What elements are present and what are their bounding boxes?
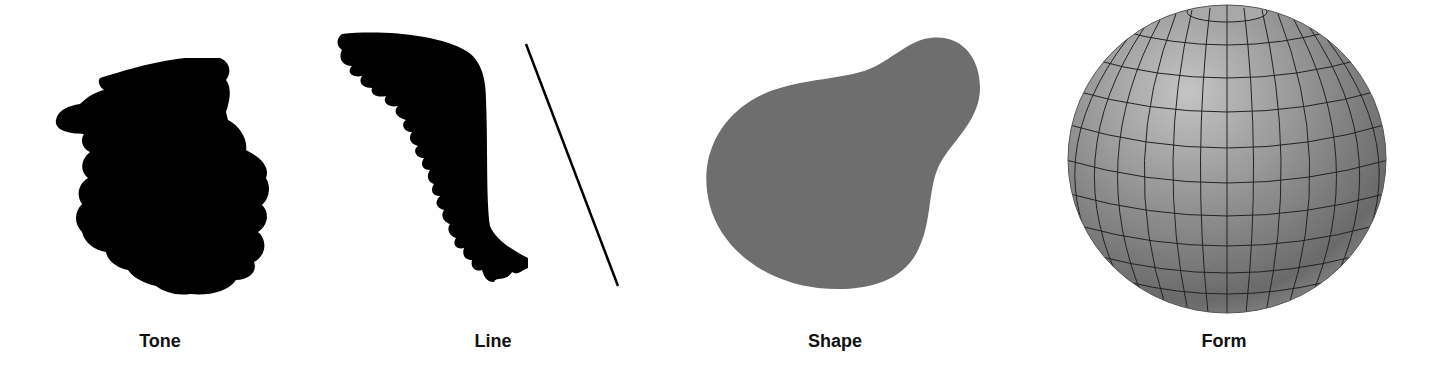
form-label: Form xyxy=(1202,331,1247,352)
shape-label: Shape xyxy=(808,331,862,352)
line-graphic xyxy=(300,0,680,376)
tone-scribble-graphic xyxy=(0,0,300,376)
tone-label: Tone xyxy=(139,331,181,352)
form-panel: Form xyxy=(1020,0,1433,376)
shape-blob-graphic xyxy=(680,0,1020,376)
line-label: Line xyxy=(474,331,511,352)
wavy-brush-stroke xyxy=(338,33,529,282)
line-panel: Line xyxy=(300,0,680,376)
form-sphere-graphic xyxy=(1020,0,1433,376)
shape-panel: Shape xyxy=(680,0,1020,376)
straight-diagonal-line xyxy=(526,44,618,286)
tone-panel: Tone xyxy=(0,0,300,376)
